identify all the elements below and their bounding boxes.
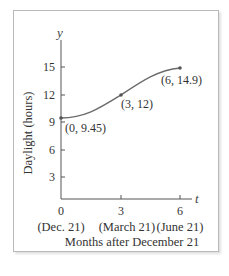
- x-axis-label: Months after December 21: [65, 235, 199, 249]
- point-label: (3, 12): [121, 97, 153, 111]
- x-subtick-label-march: (March 21): [99, 220, 156, 234]
- y-tick-label: 9: [49, 115, 55, 129]
- x-subtick-label-dec: (Dec. 21): [37, 220, 84, 234]
- data-point: [59, 116, 63, 120]
- y-tick-label: 15: [43, 60, 55, 74]
- x-tick-label: 0: [58, 204, 64, 218]
- x-ticks: 0 3 6 (Dec. 21) (March 21) (June 21): [37, 195, 203, 234]
- y-tick-label: 6: [49, 143, 55, 157]
- x-subtick-label-june: (June 21): [157, 220, 204, 234]
- x-tick-label: 6: [177, 204, 183, 218]
- y-ticks: 15 12 9 6 3: [43, 60, 65, 184]
- x-axis-variable: t: [195, 191, 199, 206]
- y-axis-variable: y: [55, 25, 63, 40]
- point-label: (6, 14.9): [161, 73, 202, 87]
- y-tick-label: 3: [49, 170, 55, 184]
- point-label: (0, 9.45): [65, 121, 106, 135]
- y-tick-label: 12: [43, 88, 55, 102]
- x-tick-label: 3: [118, 204, 124, 218]
- data-point: [178, 66, 182, 70]
- chart: y t 15 12 9 6 3 0 3 6 (Dec. 21) (March 2…: [0, 0, 229, 276]
- y-axis-label: Daylight (hours): [21, 92, 35, 175]
